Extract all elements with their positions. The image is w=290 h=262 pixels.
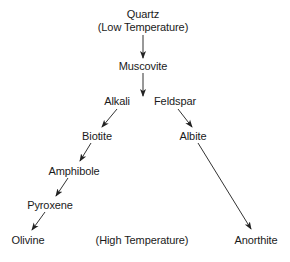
arrow-biotite-to-amphibole bbox=[80, 143, 91, 161]
low-temperature-label: (Low Temperature) bbox=[98, 21, 188, 34]
node-quartz: Quartz bbox=[127, 8, 159, 21]
arrow-albite-to-anorthite bbox=[198, 143, 251, 229]
node-pyroxene: Pyroxene bbox=[27, 199, 73, 212]
node-alkali: Alkali bbox=[104, 95, 130, 108]
high-temperature-label: (High Temperature) bbox=[96, 234, 189, 247]
bowen-reaction-series-diagram: Quartz (Low Temperature) Muscovite Alkal… bbox=[0, 0, 290, 262]
node-anorthite: Anorthite bbox=[234, 234, 277, 247]
node-biotite: Biotite bbox=[82, 130, 112, 143]
arrow-amphibole-to-pyroxene bbox=[56, 178, 68, 196]
arrow-pyroxene-to-olivine bbox=[32, 212, 45, 230]
node-muscovite: Muscovite bbox=[119, 60, 168, 73]
arrow-layer bbox=[0, 0, 290, 262]
arrow-feldspar-to-albite bbox=[178, 109, 192, 127]
node-feldspar: Feldspar bbox=[154, 95, 196, 108]
node-olivine: Olivine bbox=[12, 234, 45, 247]
arrow-alkali-to-biotite bbox=[102, 109, 117, 127]
node-amphibole: Amphibole bbox=[48, 165, 99, 178]
node-albite: Albite bbox=[180, 130, 207, 143]
